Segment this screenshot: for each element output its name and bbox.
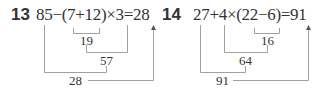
arrow-up-icon [306,25,311,30]
line-85-to-57 [45,25,107,73]
step-value: 19 [80,34,93,47]
problem-number: 13 [11,5,30,25]
problem-expression: 85−(7+12)×3=28 [36,5,149,25]
arrow-up-icon [151,25,156,30]
problem-expression: 27+4×(22−6)=91 [193,5,306,25]
step-value: 16 [261,34,274,47]
step-value: 91 [216,74,229,87]
problem-number: 14 [162,5,181,25]
step-value: 64 [239,54,252,67]
step-value: 57 [100,54,113,67]
step-value: 28 [69,74,82,87]
